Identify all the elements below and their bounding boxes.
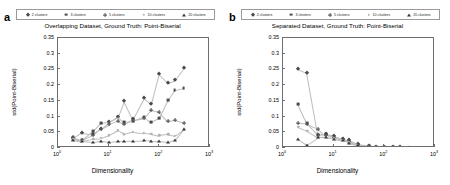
legend-entry-3-clusters[interactable]: 3 clusters	[289, 12, 311, 17]
triangle-marker	[367, 145, 371, 146]
x-tick-mark	[209, 144, 210, 147]
dot-marker	[366, 12, 371, 17]
legend-entry-5-clusters[interactable]: 5 clusters	[102, 12, 124, 17]
y-tick-label: 0.3	[47, 50, 55, 56]
square-marker	[150, 121, 153, 124]
y-tick-mark	[282, 100, 285, 101]
plus-marker	[182, 121, 186, 125]
y-tick-mark	[57, 37, 60, 38]
data-point	[297, 67, 300, 70]
series-line-segment	[151, 74, 160, 104]
square-marker	[116, 115, 119, 118]
plus-marker	[316, 127, 320, 131]
data-point	[92, 129, 95, 132]
data-point	[157, 110, 161, 114]
data-point	[167, 99, 170, 102]
data-point	[332, 137, 336, 140]
plus-marker	[116, 119, 120, 123]
data-point	[116, 119, 120, 123]
plot-area-a	[57, 37, 209, 147]
y-tick-mark	[282, 84, 285, 85]
data-point	[367, 145, 371, 146]
y-tick-mark	[282, 68, 285, 69]
data-point	[123, 133, 125, 135]
data-point	[305, 71, 308, 74]
square-marker	[167, 99, 170, 102]
triangle-marker	[131, 139, 135, 142]
dot-marker	[107, 134, 109, 136]
data-point	[107, 140, 111, 143]
diamond-marker	[296, 66, 301, 71]
data-point	[157, 140, 161, 143]
data-point	[166, 141, 170, 144]
diamond-marker	[142, 95, 147, 100]
dot-marker	[167, 133, 169, 135]
legend-label: 2 clusters	[32, 13, 47, 17]
triangle-marker	[305, 143, 309, 146]
y-tick-label: 0.25	[269, 65, 280, 71]
x-tick-mark	[383, 144, 384, 147]
square-marker	[297, 103, 300, 106]
data-point	[116, 129, 118, 131]
data-point	[173, 89, 176, 92]
legend-entry-20-clusters[interactable]: 20 clusters	[407, 12, 431, 17]
plus-marker	[107, 122, 111, 126]
y-tick-mark	[282, 147, 285, 148]
y-tick-mark	[282, 131, 285, 132]
data-point	[167, 133, 169, 135]
legend-entry-5-clusters[interactable]: 5 clusters	[327, 12, 349, 17]
plus-marker	[166, 119, 170, 123]
plus-marker	[99, 127, 103, 131]
data-point	[182, 121, 186, 125]
triangle-marker	[157, 140, 161, 143]
legend-entry-10-clusters[interactable]: 10 clusters	[141, 12, 165, 17]
data-point	[91, 141, 95, 144]
y-tick-mark	[57, 68, 60, 69]
dot-marker	[297, 126, 299, 128]
data-point	[122, 140, 126, 143]
dot-marker	[92, 137, 94, 139]
data-point	[71, 138, 75, 141]
data-point	[173, 118, 177, 122]
x-axis-label-a: Dimensionality	[0, 167, 225, 174]
x-axis-label-b: Dimensionality	[225, 167, 450, 174]
data-point	[341, 139, 345, 142]
data-point	[150, 121, 153, 124]
data-point	[149, 139, 153, 142]
plus-marker	[131, 118, 135, 122]
legend-entry-20-clusters[interactable]: 20 clusters	[182, 12, 206, 17]
y-tick-label: 0.2	[47, 81, 55, 87]
triangle-marker	[316, 136, 320, 139]
legend-entry-10-clusters[interactable]: 10 clusters	[366, 12, 390, 17]
legend-label: 10 clusters	[148, 13, 166, 17]
data-point	[92, 137, 94, 139]
legend-entry-3-clusters[interactable]: 3 clusters	[64, 12, 86, 17]
plot-series-layer-b	[283, 38, 433, 146]
legend-label: 10 clusters	[373, 13, 391, 17]
data-point	[122, 99, 125, 102]
triangle-marker	[122, 140, 126, 143]
data-point	[99, 121, 102, 124]
diamond-marker	[157, 71, 162, 76]
triangle-marker	[173, 139, 177, 142]
data-point	[142, 116, 146, 120]
diamond-marker	[149, 102, 154, 107]
legend-entry-2-clusters[interactable]: 2 clusters	[25, 12, 47, 17]
data-point	[316, 127, 320, 131]
triangle-marker	[347, 141, 351, 144]
data-point	[173, 139, 177, 142]
data-point	[158, 117, 161, 120]
data-point	[143, 132, 145, 134]
plus-marker	[102, 12, 107, 17]
plus-marker	[91, 133, 95, 137]
figure-canvas: a 2 clusters3 clusters5 clusters10 clust…	[0, 0, 450, 185]
plus-marker	[122, 122, 126, 126]
x-tick-label: 103	[205, 150, 213, 157]
legend-b: 2 clusters3 clusters5 clusters10 cluster…	[241, 9, 440, 20]
legend-entry-2-clusters[interactable]: 2 clusters	[250, 12, 272, 17]
data-point	[99, 127, 103, 131]
triangle-marker	[107, 140, 111, 143]
data-point	[116, 115, 119, 118]
plot-area-b	[282, 37, 434, 147]
square-marker	[92, 129, 95, 132]
